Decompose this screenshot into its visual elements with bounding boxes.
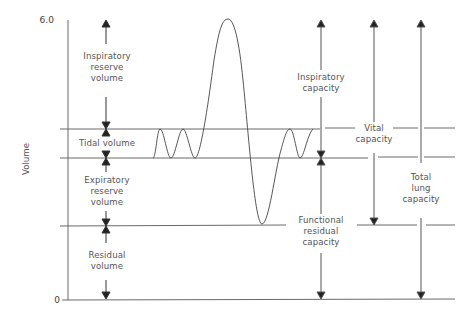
label-vital-capacity: Vital capacity bbox=[355, 123, 393, 145]
tick-top: 6.0 bbox=[30, 15, 54, 26]
label-residual-volume: Residual volume bbox=[74, 250, 140, 272]
lung-volumes-diagram: 6.0 0 Volume Inspiratory reserve volume … bbox=[0, 0, 474, 319]
level-line-zero bbox=[62, 299, 455, 300]
label-tidal-volume: Tidal volume bbox=[74, 138, 140, 149]
tick-bottom: 0 bbox=[44, 295, 60, 306]
label-expiratory-reserve-volume: Expiratory reserve volume bbox=[74, 175, 140, 208]
label-functional-residual-capacity: Functional residual capacity bbox=[286, 215, 356, 248]
diagram-canvas bbox=[0, 0, 474, 319]
spirogram-curve bbox=[153, 19, 313, 224]
y-axis-label: Volume bbox=[21, 139, 31, 179]
level-line-max-expiration bbox=[60, 225, 286, 226]
label-inspiratory-capacity: Inspiratory capacity bbox=[286, 72, 356, 94]
label-total-lung-capacity: Total lung capacity bbox=[398, 172, 444, 205]
tlc-arrows bbox=[417, 20, 425, 299]
label-inspiratory-reserve-volume: Inspiratory reserve volume bbox=[74, 51, 140, 84]
